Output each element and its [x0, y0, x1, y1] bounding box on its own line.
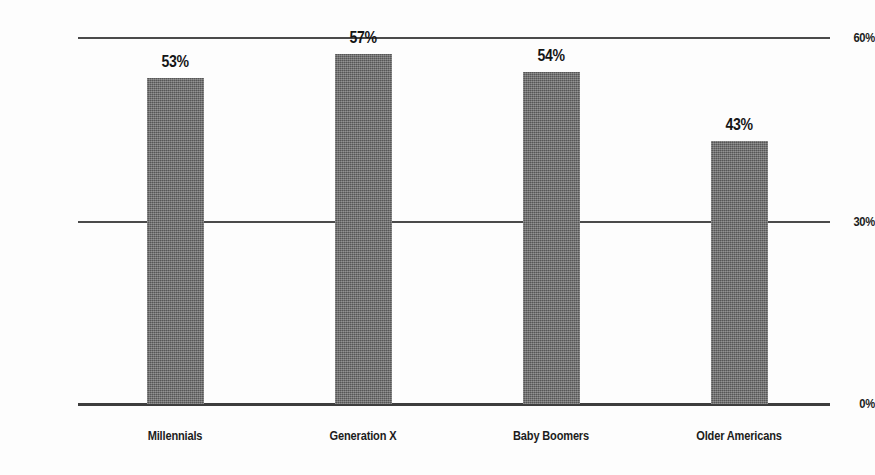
bar-chart: 60% 30% 0% 53% 57% 54% 43% Millennials G… [0, 0, 875, 475]
bar-value-generation-x: 57% [323, 30, 402, 46]
x-tick-label-generation-x: Generation X [291, 429, 436, 442]
bar-older-americans [711, 141, 768, 404]
x-tick-label-millennials: Millennials [103, 429, 248, 442]
bar-value-older-americans: 43% [699, 117, 778, 133]
x-tick-label-older-americans: Older Americans [667, 429, 812, 442]
bar-value-baby-boomers: 54% [511, 48, 590, 64]
gridline-60 [78, 37, 830, 39]
x-tick-label-baby-boomers: Baby Boomers [479, 429, 624, 442]
y-tick-label-30: 30% [825, 215, 875, 228]
y-tick-label-0: 0% [825, 397, 875, 410]
y-tick-label-60: 60% [825, 31, 875, 44]
bar-generation-x [335, 54, 392, 404]
bar-baby-boomers [523, 72, 580, 404]
bar-millennials [147, 78, 204, 404]
bar-value-millennials: 53% [135, 54, 214, 70]
plot-area: 60% 30% 0% 53% 57% 54% 43% Millennials G… [0, 0, 875, 475]
